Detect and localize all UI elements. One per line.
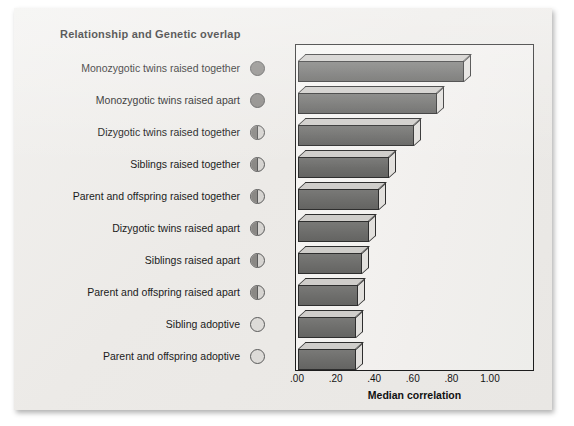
bar-front-face — [298, 189, 379, 210]
bar-front-face — [298, 285, 358, 306]
genetic-overlap-full-icon — [250, 93, 265, 108]
bar — [298, 317, 356, 338]
bar-side-face — [464, 55, 471, 82]
category-label: Parent and offspring adoptive — [103, 350, 240, 362]
category-label: Parent and offspring raised apart — [87, 286, 240, 298]
genetic-overlap-half-icon — [250, 157, 265, 172]
category-row: Parent and offspring raised together — [44, 180, 240, 212]
bar-top-face — [298, 342, 364, 349]
bar-top-face — [298, 214, 377, 221]
bar — [298, 253, 362, 274]
bar-side-face — [356, 343, 363, 370]
bar-side-face — [414, 119, 421, 146]
x-axis-title: Median correlation — [295, 389, 534, 401]
bar-front-face — [298, 221, 369, 242]
genetic-overlap-cell — [246, 340, 268, 372]
x-axis-tick-label: .40 — [367, 373, 381, 384]
bar — [298, 157, 389, 178]
category-label: Monozygotic twins raised apart — [96, 94, 240, 106]
genetic-overlap-cell — [246, 148, 268, 180]
bar — [298, 285, 358, 306]
bar-front-face — [298, 125, 414, 146]
x-axis-tick-label: 1.00 — [480, 373, 499, 384]
genetic-overlap-half-icon — [250, 125, 265, 140]
bar-side-face — [362, 247, 369, 274]
bar-front-face — [298, 157, 389, 178]
genetic-overlap-half-icon — [250, 221, 265, 236]
category-row: Dizygotic twins raised together — [44, 116, 240, 148]
x-axis-ticks: .00.20.40.60.801.00 — [295, 373, 534, 387]
bar-top-face — [298, 182, 387, 189]
bar — [298, 125, 414, 146]
genetic-overlap-cell — [246, 308, 268, 340]
category-row: Sibling adoptive — [44, 308, 240, 340]
category-row: Siblings raised together — [44, 148, 240, 180]
bar-side-face — [389, 151, 396, 178]
bar-side-face — [356, 311, 363, 338]
bar-series — [296, 45, 533, 370]
bar-side-face — [369, 215, 376, 242]
bar-side-face — [379, 183, 386, 210]
category-label: Siblings raised together — [130, 158, 240, 170]
x-axis-tick-label: .00 — [290, 373, 304, 384]
genetic-overlap-cell — [246, 276, 268, 308]
category-row: Dizygotic twins raised apart — [44, 212, 240, 244]
bar-top-face — [298, 118, 422, 125]
bar-side-face — [358, 279, 365, 306]
category-row: Monozygotic twins raised together — [44, 52, 240, 84]
plot-area — [295, 44, 534, 371]
category-row: Parent and offspring raised apart — [44, 276, 240, 308]
category-label: Dizygotic twins raised together — [98, 126, 240, 138]
category-label: Parent and offspring raised together — [73, 190, 240, 202]
category-row: Siblings raised apart — [44, 244, 240, 276]
genetic-overlap-half-icon — [250, 189, 265, 204]
bar-top-face — [298, 310, 364, 317]
bar — [298, 61, 464, 82]
genetic-overlap-cell — [246, 116, 268, 148]
genetic-overlap-empty-icon — [250, 317, 265, 332]
bar-top-face — [298, 54, 472, 61]
bar-side-face — [437, 87, 444, 114]
bar-top-face — [298, 246, 370, 253]
bar-front-face — [298, 61, 464, 82]
x-axis-tick-label: .20 — [329, 373, 343, 384]
genetic-overlap-half-icon — [250, 253, 265, 268]
bar — [298, 93, 437, 114]
chart-page: Relationship and Genetic overlap Monozyg… — [0, 0, 574, 426]
bar-top-face — [298, 150, 397, 157]
category-label: Siblings raised apart — [145, 254, 240, 266]
bar-top-face — [298, 86, 445, 93]
genetic-overlap-cell — [246, 84, 268, 116]
bar — [298, 189, 379, 210]
bar — [298, 221, 369, 242]
x-axis-tick-label: .60 — [406, 373, 420, 384]
x-axis-tick-label: .80 — [444, 373, 458, 384]
bar — [298, 349, 356, 370]
genetic-overlap-column — [246, 52, 268, 368]
bar-front-face — [298, 253, 362, 274]
genetic-overlap-full-icon — [250, 61, 265, 76]
genetic-overlap-half-icon — [250, 285, 265, 300]
category-row: Parent and offspring adoptive — [44, 340, 240, 372]
category-label: Sibling adoptive — [166, 318, 240, 330]
bar-top-face — [298, 278, 366, 285]
category-label-column: Monozygotic twins raised together Monozy… — [44, 52, 240, 368]
genetic-overlap-cell — [246, 52, 268, 84]
category-label: Dizygotic twins raised apart — [112, 222, 240, 234]
bar-front-face — [298, 93, 437, 114]
bar-front-face — [298, 349, 356, 370]
genetic-overlap-cell — [246, 244, 268, 276]
chart-panel: Relationship and Genetic overlap Monozyg… — [14, 8, 552, 410]
genetic-overlap-cell — [246, 212, 268, 244]
category-row: Monozygotic twins raised apart — [44, 84, 240, 116]
genetic-overlap-cell — [246, 180, 268, 212]
page-title: Relationship and Genetic overlap — [60, 28, 241, 40]
genetic-overlap-empty-icon — [250, 349, 265, 364]
category-label: Monozygotic twins raised together — [81, 62, 240, 74]
bar-front-face — [298, 317, 356, 338]
